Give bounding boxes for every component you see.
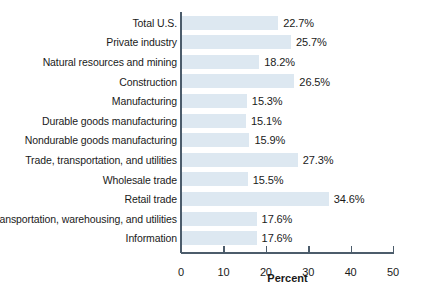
category-label: Natural resources and mining — [43, 56, 177, 68]
category-label: Transportation, warehousing, and utiliti… — [0, 213, 177, 225]
bar-value-label: 34.6% — [334, 193, 365, 205]
bar-row: Construction26.5% — [0, 72, 423, 92]
x-tick — [308, 246, 309, 252]
bar-row: Natural resources and mining18.2% — [0, 52, 423, 72]
category-label: Total U.S. — [132, 17, 177, 29]
bar-row: Information17.6% — [0, 229, 423, 249]
x-axis-title: Percent — [181, 272, 394, 284]
bar-value-label: 18.2% — [264, 56, 295, 68]
x-tick — [393, 246, 394, 252]
bar-value-label: 27.3% — [303, 154, 334, 166]
bar-value-label: 17.6% — [262, 213, 293, 225]
bar — [182, 16, 278, 30]
x-tick — [351, 246, 352, 252]
bar-row: Private industry25.7% — [0, 33, 423, 53]
bar — [182, 192, 329, 206]
bar — [182, 231, 257, 245]
bar — [182, 74, 294, 88]
plot-area: Total U.S.22.7%Private industry25.7%Natu… — [0, 12, 423, 252]
bar-value-label: 15.1% — [251, 115, 282, 127]
category-label: Manufacturing — [112, 95, 177, 107]
category-label: Nondurable goods manufacturing — [25, 134, 177, 146]
category-label: Trade, transportation, and utilities — [25, 154, 177, 166]
bar — [182, 172, 248, 186]
category-label: Private industry — [106, 36, 177, 48]
category-label: Wholesale trade — [103, 174, 177, 186]
x-axis-line — [181, 252, 394, 254]
bar-value-label: 25.7% — [296, 36, 327, 48]
bar — [182, 212, 257, 226]
bar-chart: Total U.S.22.7%Private industry25.7%Natu… — [0, 0, 423, 293]
category-label: Retail trade — [125, 193, 178, 205]
bar — [182, 35, 291, 49]
x-tick — [223, 246, 224, 252]
bar-value-label: 15.5% — [253, 174, 284, 186]
bar-row: Retail trade34.6% — [0, 189, 423, 209]
x-tick — [266, 246, 267, 252]
bar-value-label: 15.3% — [252, 95, 283, 107]
bar-row: Transportation, warehousing, and utiliti… — [0, 209, 423, 229]
bar-value-label: 26.5% — [299, 76, 330, 88]
bar-row: Durable goods manufacturing15.1% — [0, 111, 423, 131]
category-label: Construction — [119, 76, 177, 88]
bar-value-label: 17.6% — [262, 232, 293, 244]
bar — [182, 55, 259, 69]
bar-row: Total U.S.22.7% — [0, 13, 423, 33]
category-label: Information — [126, 232, 177, 244]
bar-row: Nondurable goods manufacturing15.9% — [0, 131, 423, 151]
bar-row: Manufacturing15.3% — [0, 91, 423, 111]
bar-row: Wholesale trade15.5% — [0, 170, 423, 190]
bar-value-label: 15.9% — [254, 134, 285, 146]
category-label: Durable goods manufacturing — [42, 115, 177, 127]
bar — [182, 114, 246, 128]
bar-value-label: 22.7% — [283, 17, 314, 29]
bar — [182, 153, 298, 167]
x-tick — [181, 246, 182, 252]
bar — [182, 94, 247, 108]
bar-row: Trade, transportation, and utilities27.3… — [0, 150, 423, 170]
bar — [182, 133, 249, 147]
